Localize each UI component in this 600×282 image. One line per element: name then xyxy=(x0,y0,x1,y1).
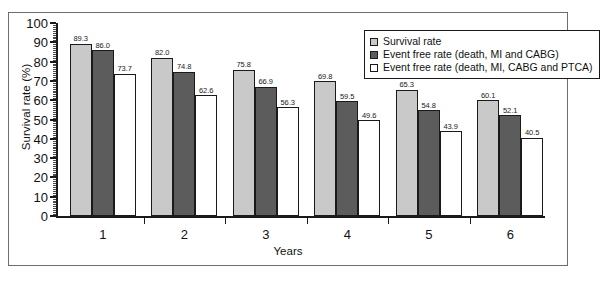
y-tick-minor xyxy=(53,179,56,180)
x-tick xyxy=(470,218,471,224)
y-tick-minor xyxy=(53,172,56,173)
y-tick-minor xyxy=(53,118,56,119)
y-tick-minor xyxy=(53,71,56,72)
y-tick-minor xyxy=(53,141,56,142)
y-tick-minor xyxy=(53,204,56,205)
y-tick-major xyxy=(50,157,56,159)
bar-value-label: 74.8 xyxy=(177,63,192,71)
bar-value-label: 40.5 xyxy=(525,129,540,137)
y-tick-label: 10 xyxy=(34,190,48,203)
legend-item[interactable]: Event free rate (death, MI and CABG) xyxy=(370,48,593,61)
y-tick-major xyxy=(50,176,56,178)
x-tick-label: 6 xyxy=(507,227,514,242)
y-tick-minor xyxy=(53,44,56,45)
legend-swatch-icon xyxy=(370,51,378,59)
y-tick-minor xyxy=(53,104,56,105)
y-tick-minor xyxy=(53,112,56,113)
y-tick-minor xyxy=(53,147,56,148)
y-tick-minor xyxy=(53,127,56,128)
legend-label: Event free rate (death, MI and CABG) xyxy=(383,49,559,60)
y-tick-minor xyxy=(53,25,56,26)
y-tick-minor xyxy=(53,125,56,126)
y-tick-minor xyxy=(53,160,56,161)
x-tick xyxy=(388,218,389,224)
legend-item[interactable]: Event free rate (death, MI, CABG and PTC… xyxy=(370,61,593,74)
y-tick-minor xyxy=(53,206,56,207)
x-tick-label: 1 xyxy=(99,227,106,242)
y-tick-minor xyxy=(53,60,56,61)
bar: 86.0 xyxy=(92,50,114,216)
y-tick-minor xyxy=(53,121,56,122)
y-tick-minor xyxy=(53,162,56,163)
y-tick-minor xyxy=(53,87,56,88)
y-tick-minor xyxy=(53,135,56,136)
y-tick-major xyxy=(50,119,56,121)
y-tick-minor xyxy=(53,54,56,55)
y-tick-minor xyxy=(53,210,56,211)
bar: 75.8 xyxy=(233,70,255,216)
y-tick-minor xyxy=(53,166,56,167)
bar: 59.5 xyxy=(336,101,358,216)
bar: 60.1 xyxy=(477,100,499,216)
y-tick-minor xyxy=(53,116,56,117)
x-tick-label: 3 xyxy=(262,227,269,242)
y-tick-minor xyxy=(53,123,56,124)
y-tick-label: 50 xyxy=(34,113,48,126)
y-tick-label: 30 xyxy=(34,152,48,165)
y-tick-label: 70 xyxy=(34,74,48,87)
chart-legend: Survival rateEvent free rate (death, MI … xyxy=(364,30,600,79)
y-tick-minor xyxy=(53,148,56,149)
y-tick-major xyxy=(50,99,56,101)
y-tick-minor xyxy=(53,168,56,169)
y-tick-minor xyxy=(53,143,56,144)
legend-item[interactable]: Survival rate xyxy=(370,35,593,48)
y-tick-minor xyxy=(53,201,56,202)
y-tick-minor xyxy=(53,27,56,28)
y-tick-minor xyxy=(53,64,56,65)
bar: 66.9 xyxy=(255,87,277,216)
y-tick-major xyxy=(50,196,56,198)
y-tick-minor xyxy=(53,154,56,155)
y-tick-label: 20 xyxy=(34,171,48,184)
bar-value-label: 62.6 xyxy=(199,87,214,95)
y-tick-minor xyxy=(53,89,56,90)
y-tick-minor xyxy=(53,77,56,78)
bar: 69.8 xyxy=(314,81,336,216)
y-tick-major xyxy=(50,80,56,82)
bar-value-label: 73.7 xyxy=(117,65,132,73)
y-tick-major xyxy=(50,61,56,63)
y-tick-minor xyxy=(53,191,56,192)
y-tick-minor xyxy=(53,52,56,53)
y-tick-minor xyxy=(53,164,56,165)
y-tick-minor xyxy=(53,183,56,184)
legend-swatch-icon xyxy=(370,38,378,46)
bar: 54.8 xyxy=(418,110,440,216)
y-tick-minor xyxy=(53,195,56,196)
x-axis-spine xyxy=(56,216,545,218)
y-tick-minor xyxy=(53,35,56,36)
y-tick-minor xyxy=(53,56,56,57)
bar: 62.6 xyxy=(195,95,217,216)
bar-value-label: 82.0 xyxy=(155,49,170,57)
y-tick-minor xyxy=(53,31,56,32)
y-tick-label: 0 xyxy=(41,210,48,223)
y-tick-minor xyxy=(53,108,56,109)
y-tick-minor xyxy=(53,189,56,190)
x-tick xyxy=(144,218,145,224)
y-tick-minor xyxy=(53,33,56,34)
y-tick-minor xyxy=(53,50,56,51)
bar: 73.7 xyxy=(114,74,136,216)
y-tick-major xyxy=(50,138,56,140)
bar-value-label: 49.6 xyxy=(362,112,377,120)
y-tick-minor xyxy=(53,85,56,86)
bar: 89.3 xyxy=(70,44,92,216)
y-tick-minor xyxy=(53,208,56,209)
y-tick-label: 100 xyxy=(26,17,48,30)
legend-label: Event free rate (death, MI, CABG and PTC… xyxy=(383,62,593,73)
y-tick-minor xyxy=(53,202,56,203)
y-tick-label: 90 xyxy=(34,36,48,49)
bar: 52.1 xyxy=(499,115,521,216)
bar: 43.9 xyxy=(440,131,462,216)
y-tick-minor xyxy=(53,187,56,188)
